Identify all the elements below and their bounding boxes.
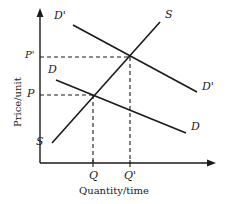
label-demand-shifted-right: D' bbox=[202, 81, 214, 92]
label-demand-shifted-left: D' bbox=[54, 10, 66, 21]
demand-curve bbox=[56, 80, 186, 133]
diagram-canvas bbox=[0, 0, 226, 204]
x-axis-title: Quantity/time bbox=[79, 186, 149, 196]
x-axis bbox=[40, 160, 216, 167]
supply-demand-figure: D' S D D' D S P' P Q Q' Price/unit Quant… bbox=[0, 0, 226, 204]
y-tick-label-p-prime: P' bbox=[25, 50, 34, 60]
demand-shifted-curve bbox=[73, 25, 197, 92]
label-supply-top: S bbox=[165, 9, 173, 20]
label-supply-bottom: S bbox=[36, 136, 44, 147]
supply-curve bbox=[52, 22, 160, 143]
y-tick-label-p: P bbox=[27, 88, 34, 99]
x-tick-label-q: Q bbox=[89, 170, 98, 181]
label-demand-left: D bbox=[48, 64, 57, 75]
label-demand-right: D bbox=[191, 121, 200, 132]
x-tick-label-q-prime: Q' bbox=[124, 170, 136, 181]
y-axis-title: Price/unit bbox=[13, 77, 23, 127]
